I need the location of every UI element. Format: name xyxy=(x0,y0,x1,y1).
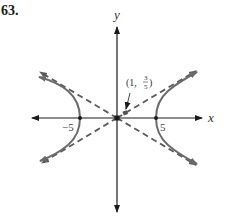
tick-label-neg-five: −5 xyxy=(62,121,74,133)
hyperbola-right-upper xyxy=(156,72,197,118)
x-axis-label: x xyxy=(207,110,214,125)
hyperbola-left-upper xyxy=(39,77,80,118)
origin-dot xyxy=(115,116,120,121)
point-label-frac-num: 3 xyxy=(144,74,148,82)
point-label: (1, 3 5 ) xyxy=(126,74,152,91)
tick-label-pos-five: 5 xyxy=(160,121,166,133)
hyperbola-left-lower xyxy=(40,118,80,161)
hyperbola-graph: y x −5 5 (1, 3 5 ) xyxy=(0,0,234,221)
vertex-right-dot xyxy=(154,116,158,120)
point-pointer-arrow xyxy=(126,93,130,109)
point-label-frac-den: 5 xyxy=(144,83,148,91)
point-label-prefix: (1, xyxy=(126,77,137,89)
point-label-suffix: ) xyxy=(149,77,152,89)
vertex-left-dot xyxy=(78,116,82,120)
y-axis-label: y xyxy=(112,7,120,22)
